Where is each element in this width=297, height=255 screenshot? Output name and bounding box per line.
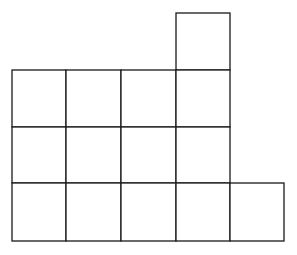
unit-square-r3-c1 [66,183,121,241]
unit-square-r3-c4 [230,183,284,241]
unit-square-r2-c0 [12,127,66,183]
unit-square-r2-c3 [176,127,230,183]
unit-square-r2-c1 [66,127,121,183]
unit-square-r3-c3 [176,183,230,241]
unit-square-r1-c2 [121,70,176,127]
unit-square-r2-c2 [121,127,176,183]
square-grid-figure [0,0,297,255]
unit-square-r1-c3 [176,70,230,127]
diagram-canvas [0,0,297,255]
unit-square-r3-c0 [12,183,66,241]
unit-square-r3-c2 [121,183,176,241]
unit-square-r1-c1 [66,70,121,127]
unit-square-r1-c0 [12,70,66,127]
unit-square-r0-c3 [176,13,230,70]
